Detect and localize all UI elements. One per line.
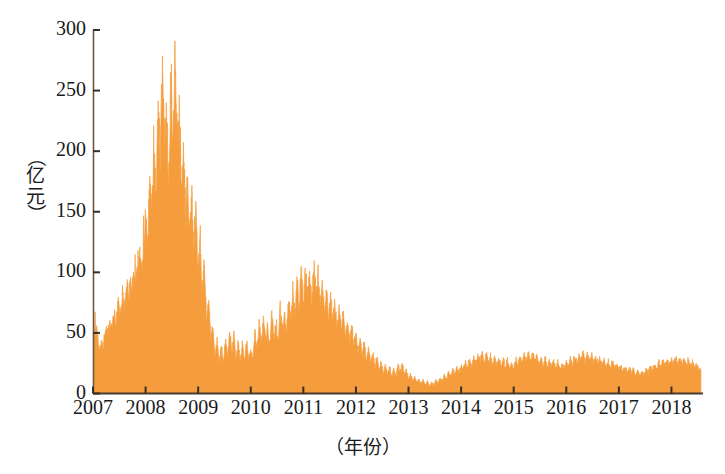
y-axis-title: （ 亿 元 ） bbox=[18, 150, 52, 221]
area-series-path bbox=[93, 41, 701, 394]
x-axis-title: （年份） bbox=[0, 432, 725, 459]
plot-area bbox=[0, 0, 725, 474]
y-axis-title-paren-open: （ bbox=[28, 141, 43, 175]
area-series bbox=[93, 41, 701, 394]
y-axis-title-paren-close: ） bbox=[28, 197, 43, 231]
chart-figure: （ 亿 元 ） （年份） 050100150200250300 20072008… bbox=[0, 0, 725, 474]
